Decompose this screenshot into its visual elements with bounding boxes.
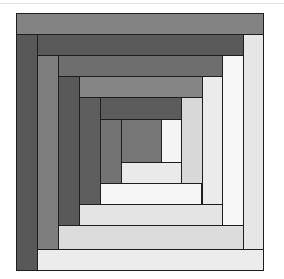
bottom-strip-3 bbox=[79, 204, 223, 226]
bottom-strip-5 bbox=[121, 162, 182, 184]
top-strip-4 bbox=[79, 76, 203, 98]
center-square bbox=[121, 119, 162, 163]
top-strip-2 bbox=[37, 34, 244, 56]
top-strip-5 bbox=[100, 97, 182, 120]
log-cabin-quilt-block bbox=[16, 13, 264, 271]
top-strip-3 bbox=[58, 55, 223, 77]
left-strip-5 bbox=[100, 119, 122, 184]
right-strip-3 bbox=[202, 76, 223, 205]
bottom-strip-2 bbox=[58, 225, 244, 250]
bottom-strip-4 bbox=[100, 183, 202, 205]
top-divider-line bbox=[0, 3, 284, 4]
bottom-strip-1 bbox=[37, 249, 264, 271]
top-strip-1 bbox=[16, 13, 264, 35]
right-strip-5 bbox=[161, 119, 182, 163]
left-strip-3 bbox=[58, 76, 80, 226]
left-strip-4 bbox=[79, 97, 101, 205]
left-strip-2 bbox=[37, 55, 59, 250]
right-strip-1 bbox=[243, 34, 264, 250]
left-strip-1 bbox=[16, 34, 38, 271]
right-strip-4 bbox=[181, 97, 203, 184]
right-strip-2 bbox=[222, 55, 244, 226]
